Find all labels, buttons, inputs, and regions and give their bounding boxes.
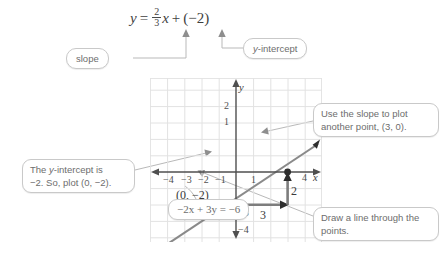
callout-left-line2: −2. So, plot (0, −2). bbox=[30, 177, 111, 188]
callout-equation-label-text: −2x + 3y = −6 bbox=[177, 203, 240, 215]
y-tick-label-1: 1 bbox=[224, 116, 229, 127]
run-label: 3 bbox=[260, 208, 266, 223]
x-tick-label--4: −4 bbox=[163, 174, 174, 185]
y-tick-label-2: 2 bbox=[224, 100, 229, 111]
x-tick-label--2: −2 bbox=[198, 174, 209, 185]
callout-slope: slope bbox=[66, 48, 109, 69]
callout-draw-line: Draw a line through the points. bbox=[313, 207, 439, 241]
callout-left-line1-a: The bbox=[30, 164, 49, 175]
callout-use-slope: Use the slope to plot another point, (3,… bbox=[313, 103, 439, 137]
callout-draw-line-text: Draw a line through the points. bbox=[321, 212, 419, 236]
y-axis-label: y bbox=[239, 82, 244, 93]
callout-left-line1-b: -intercept is bbox=[54, 164, 103, 175]
x-tick-label-4: 4 bbox=[302, 172, 307, 183]
connector-slope bbox=[133, 36, 186, 58]
connector-slope-arrowhead bbox=[182, 29, 189, 37]
x-tick-label-1: 1 bbox=[251, 174, 256, 185]
connector-y-intercept-arrowhead bbox=[218, 29, 225, 37]
x-tick-label--1: −1 bbox=[215, 174, 226, 185]
x-axis-arrowhead-left bbox=[151, 168, 159, 175]
rise-label: 2 bbox=[291, 184, 297, 199]
callout-equation-label: −2x + 3y = −6 bbox=[168, 199, 249, 220]
connector-y-intercept bbox=[222, 36, 243, 48]
callout-y-intercept-explanation: The y-intercept is −2. So, plot (0, −2). bbox=[22, 159, 135, 193]
callout-y-intercept-rest: -intercept bbox=[258, 43, 298, 54]
y-tick-label--4: −4 bbox=[238, 224, 249, 235]
x-tick-label--3: −3 bbox=[181, 174, 192, 185]
callout-slope-label: slope bbox=[76, 53, 99, 64]
callout-y-intercept: y-intercept bbox=[243, 38, 307, 59]
callout-use-slope-text: Use the slope to plot another point, (3,… bbox=[321, 108, 408, 132]
x-axis-label: x bbox=[313, 172, 318, 183]
point-3-0 bbox=[284, 169, 291, 176]
